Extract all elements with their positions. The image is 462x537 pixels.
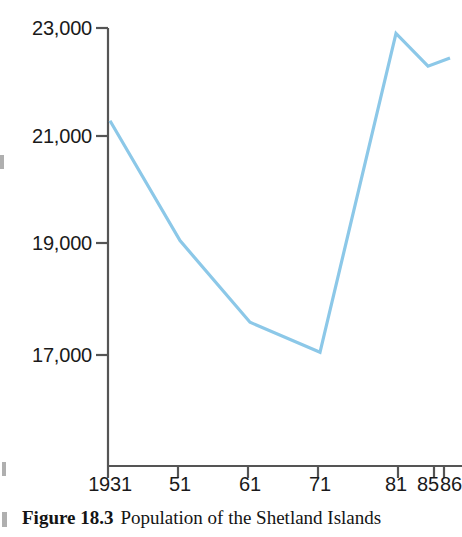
x-tick-label-86: 86 [428,474,462,494]
y-tick-label-21000: 21,000 [0,126,92,146]
figure-caption-text: Population of the Shetland Islands [120,507,381,528]
x-tick-label-1931: 1931 [70,474,150,494]
y-axis-ticks [96,28,108,355]
y-tick-label-23000: 23,000 [0,18,92,38]
page-edge-mark-caption [2,512,7,527]
y-tick-label-19000: 19,000 [0,233,92,253]
figure-caption-number: Figure 18.3 [22,507,113,528]
population-line [110,34,450,353]
figure-caption: Figure 18.3Population of the Shetland Is… [22,508,462,529]
x-tick-label-51: 51 [150,474,210,494]
figure-container: 23,000 21,000 19,000 17,000 1931 51 61 7… [0,0,462,537]
x-tick-label-61: 61 [220,474,280,494]
y-tick-label-17000: 17,000 [0,345,92,365]
x-tick-label-71: 71 [290,474,350,494]
